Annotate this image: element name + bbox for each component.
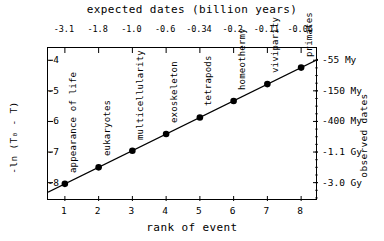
right-tick-label: -55 My — [322, 54, 356, 65]
right-tick-label: -150 My — [322, 84, 362, 95]
data-point — [163, 131, 170, 138]
x-tick-label: 8 — [297, 205, 303, 216]
data-point — [264, 81, 271, 88]
point-annotation: appearance of life — [68, 72, 78, 173]
point-annotation: multicellularity — [135, 50, 145, 140]
point-annotation: primates — [304, 12, 314, 57]
data-point — [197, 114, 204, 121]
data-point — [95, 164, 102, 171]
point-annotation: tetrapods — [203, 56, 213, 107]
x-tick-label: 2 — [95, 205, 101, 216]
y-tick-label: -8 — [48, 176, 59, 187]
x-tick-label: 3 — [129, 205, 135, 216]
point-annotation: exoskeleton — [169, 61, 179, 123]
top-tick-label: -0.6 — [155, 24, 175, 34]
right-axis-label: observed dates — [358, 91, 369, 181]
x-tick-label: 5 — [196, 205, 202, 216]
data-point — [62, 181, 69, 188]
point-annotation: homeothermy — [237, 28, 247, 90]
chart-title: expected dates (billion years) — [0, 3, 384, 16]
fit-line — [48, 59, 318, 192]
right-tick-label: -3.0 Gy — [322, 176, 362, 187]
x-tick-label: 1 — [61, 205, 67, 216]
top-tick-label: -1.8 — [88, 24, 108, 34]
right-tick-label: -1.1 Gy — [322, 146, 362, 157]
y-axis-label: -ln (T₀ - T) — [8, 93, 19, 183]
x-axis-tick-labels: 12345678 — [47, 205, 317, 219]
point-annotation: viviparity — [270, 17, 280, 73]
top-tick-label: -0.34 — [186, 24, 211, 34]
y-tick-label: -6 — [48, 115, 59, 126]
x-tick-label: 6 — [230, 205, 236, 216]
x-tick-label: 4 — [162, 205, 168, 216]
data-point — [298, 64, 305, 71]
y-tick-label: -5 — [48, 84, 59, 95]
top-tick-label: -1.0 — [121, 24, 141, 34]
y-tick-label: -7 — [48, 146, 59, 157]
x-tick-label: 7 — [264, 205, 270, 216]
chart-figure: expected dates (billion years) -3.1-1.8-… — [0, 0, 384, 241]
right-tick-label: -400 My — [322, 115, 362, 126]
data-point — [230, 98, 237, 105]
y-tick-label: -4 — [48, 54, 59, 65]
x-axis-label: rank of event — [0, 221, 384, 234]
top-tick-label: -3.1 — [54, 24, 74, 34]
data-point — [129, 148, 136, 155]
point-annotation: eukaryotes — [102, 100, 112, 156]
